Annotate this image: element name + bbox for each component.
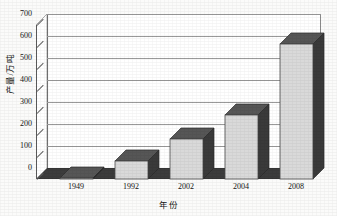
bar-2002 <box>170 128 203 179</box>
x-axis-tick-label: 2004 <box>233 182 249 191</box>
bar-1949 <box>60 167 93 179</box>
y-axis-tick-label: 0 <box>6 164 32 172</box>
y-axis-tick-label: 500 <box>6 54 32 62</box>
y-axis-tick-label: 400 <box>6 76 32 84</box>
x-axis-tick-label: 1949 <box>68 182 84 191</box>
y-axis-tick-label: 700 <box>6 10 32 18</box>
x-axis-tick-label: 1992 <box>123 182 139 191</box>
y-axis-tick-label: 200 <box>6 120 32 128</box>
x-axis-tick-label: 2008 <box>288 182 304 191</box>
x-axis-tick-labels: 1949 1992 2002 2004 2008 <box>36 182 321 196</box>
x-axis-title: 年份 <box>0 198 337 210</box>
x-axis-tick-label: 2002 <box>178 182 194 191</box>
gridline <box>47 14 321 15</box>
bar-1992 <box>115 150 148 179</box>
y-axis-tick-label: 600 <box>6 32 32 40</box>
bar-2008 <box>280 33 313 179</box>
plot-area <box>36 14 321 179</box>
y-axis-tick-label: 300 <box>6 98 32 106</box>
y-axis-tick-labels: 700 600 500 400 300 200 100 0 <box>6 0 32 216</box>
bar-chart: 产量/万吨 700 600 500 400 300 200 100 0 <box>0 0 337 216</box>
y-axis-tick-label: 100 <box>6 142 32 150</box>
bar-2004 <box>225 104 258 179</box>
